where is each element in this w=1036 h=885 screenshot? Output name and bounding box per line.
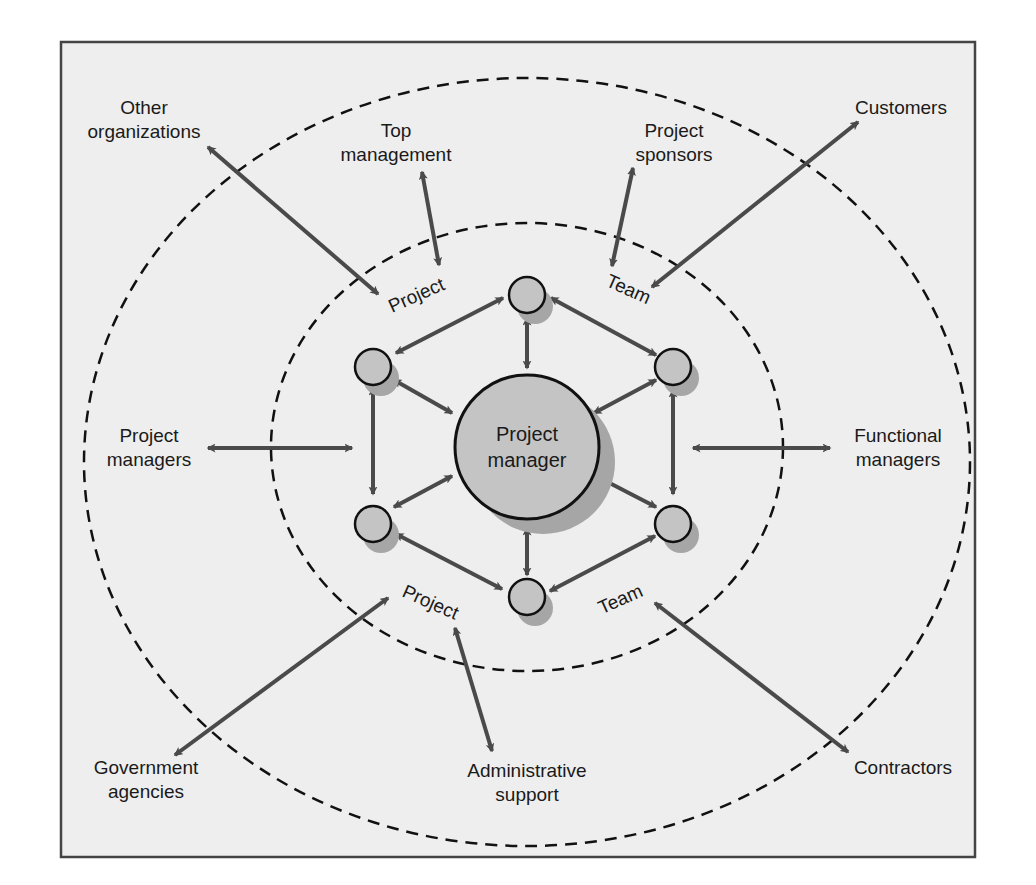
svg-text:Project: Project: [644, 120, 704, 141]
label-customers: Customers: [855, 97, 947, 118]
svg-text:Functional: Functional: [854, 425, 942, 446]
label-contractors: Contractors: [854, 757, 952, 778]
center-label-line2: manager: [488, 449, 567, 471]
svg-text:organizations: organizations: [87, 121, 200, 142]
svg-text:sponsors: sponsors: [635, 144, 712, 165]
svg-text:Government: Government: [94, 757, 199, 778]
svg-text:Project: Project: [119, 425, 179, 446]
svg-text:management: management: [341, 144, 453, 165]
center-label-line1: Project: [496, 423, 559, 445]
svg-text:managers: managers: [856, 449, 941, 470]
stakeholder-diagram: Project manager Project Team Project Tea…: [0, 0, 1036, 885]
svg-text:Top: Top: [381, 120, 412, 141]
svg-text:managers: managers: [107, 449, 192, 470]
svg-text:Contractors: Contractors: [854, 757, 952, 778]
svg-text:Administrative: Administrative: [467, 760, 586, 781]
svg-text:agencies: agencies: [108, 781, 184, 802]
svg-text:support: support: [495, 784, 559, 805]
svg-text:Customers: Customers: [855, 97, 947, 118]
svg-text:Other: Other: [120, 97, 168, 118]
